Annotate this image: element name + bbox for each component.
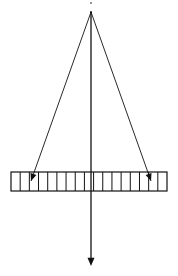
left-ray xyxy=(31,12,91,181)
diagram-canvas xyxy=(0,0,178,276)
central-arrowhead-icon xyxy=(87,258,94,266)
source-dot xyxy=(90,2,92,4)
right-ray xyxy=(91,12,151,181)
point-source xyxy=(90,11,92,13)
rays xyxy=(31,2,152,266)
